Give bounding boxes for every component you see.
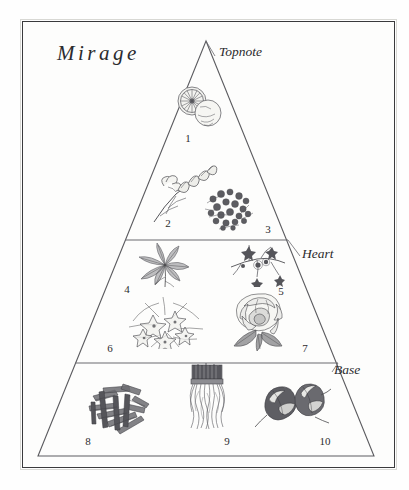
note-number-6: 6: [107, 342, 113, 354]
jasmine-cluster-icon: [127, 295, 205, 349]
note-number-7: 7: [302, 342, 308, 354]
starflower-sprig-icon: [227, 241, 289, 287]
note-number-1: 1: [185, 132, 191, 144]
rose-bloom-icon: [222, 290, 294, 352]
wood-shavings-icon: [83, 376, 157, 438]
leader-topnote: [206, 41, 215, 56]
band-label-heart: Heart: [302, 246, 334, 262]
note-number-8: 8: [85, 435, 91, 447]
tonka-bean-pods-icon: [255, 377, 331, 435]
note-number-9: 9: [224, 435, 230, 447]
blossom-cluster-icon: [199, 183, 261, 233]
note-number-2: 2: [165, 217, 171, 229]
band-label-base: Base: [334, 362, 360, 378]
note-number-3: 3: [265, 223, 271, 235]
citrus-fruit-icon: [170, 83, 226, 131]
page-title: Mirage: [57, 41, 140, 66]
fragrance-pyramid-page: Mirage Topnote Heart Base: [0, 0, 409, 490]
vetiver-roots-icon: [179, 361, 235, 439]
note-number-4: 4: [124, 283, 130, 295]
band-label-topnote: Topnote: [219, 44, 262, 60]
note-number-10: 10: [320, 435, 331, 447]
leafy-herb-icon: [128, 239, 202, 291]
